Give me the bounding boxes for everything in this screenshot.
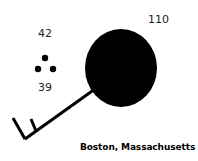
wind-barb-icon bbox=[13, 89, 95, 139]
pressure-label: 110 bbox=[148, 14, 169, 25]
snow-weather-icon bbox=[35, 55, 56, 72]
dew-point-label: 39 bbox=[38, 82, 52, 93]
sky-cover-icon bbox=[85, 29, 157, 107]
station-name: Boston, Massachusetts bbox=[80, 143, 195, 152]
temperature-label: 42 bbox=[38, 28, 52, 39]
